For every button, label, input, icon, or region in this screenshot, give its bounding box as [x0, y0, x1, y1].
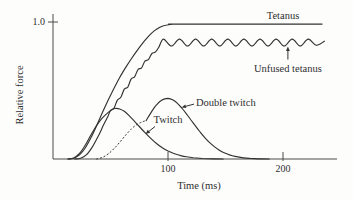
annotation-group: TetanusUnfused tetanusDouble twitchTwitc… [146, 10, 322, 134]
chart-canvas: 1.0 100 200 Time (ms) Relative force Tet… [0, 0, 353, 200]
double-twitch-label: Double twitch [196, 97, 257, 108]
force-time-chart: 1.0 100 200 Time (ms) Relative force Tet… [0, 0, 353, 200]
double-twitch-arrow-head-icon [182, 105, 187, 109]
curve-group [68, 24, 324, 159]
twitch-arrow-line [149, 127, 155, 132]
unfused-tetanus-arrow-head-icon [286, 47, 290, 52]
tetanus-curve [68, 24, 322, 159]
x-tick-label-200: 200 [276, 163, 291, 174]
x-tick-label-100: 100 [161, 163, 176, 174]
unfused-tetanus-label: Unfused tetanus [254, 63, 322, 74]
double-twitch-arrow-line [186, 104, 194, 106]
x-axis-title: Time (ms) [177, 180, 221, 192]
twitch-label: Twitch [153, 114, 183, 125]
tetanus-label: Tetanus [267, 10, 300, 21]
twitch-curve [68, 108, 223, 159]
axes: 1.0 100 200 Time (ms) Relative force [14, 14, 337, 192]
y-tick-label: 1.0 [33, 16, 46, 27]
y-axis-title: Relative force [14, 65, 25, 125]
